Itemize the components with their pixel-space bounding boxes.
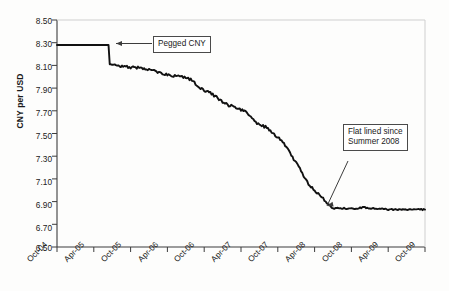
flat-lined-arrow bbox=[327, 161, 348, 207]
annotation-pegged-cny: Pegged CNY bbox=[153, 36, 211, 53]
pegged-cny-arrow bbox=[116, 41, 152, 46]
annotation-flat-lined: Flat lined since Summer 2008 bbox=[343, 124, 408, 151]
annotation-flat-lined-line2: Summer 2008 bbox=[348, 137, 403, 147]
chart-container: CNY per USD 8.50 8.30 8.10 7.90 7.70 7.5… bbox=[0, 0, 449, 291]
annotation-flat-lined-line1: Flat lined since bbox=[348, 127, 403, 137]
y-tick-marks bbox=[52, 20, 57, 247]
annotation-pegged-cny-text: Pegged CNY bbox=[158, 39, 206, 48]
